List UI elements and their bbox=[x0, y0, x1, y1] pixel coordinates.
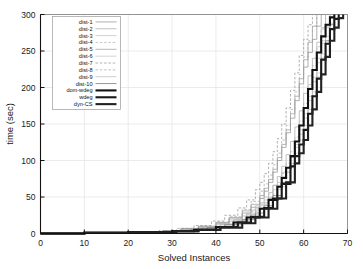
x-axis-tick-label: 40 bbox=[211, 238, 221, 248]
legend-label-dist-2: dist-2 bbox=[79, 26, 93, 32]
legend-label-wdeg: wdeg bbox=[78, 94, 92, 100]
legend-label-dist-4: dist-4 bbox=[79, 39, 93, 45]
y-axis-tick-label: 50 bbox=[26, 192, 36, 202]
x-axis-tick-label: 70 bbox=[343, 238, 353, 248]
legend-label-dist-8: dist-8 bbox=[79, 67, 93, 73]
legend-label-dist-9: dist-9 bbox=[79, 74, 93, 80]
y-axis-tick-label: 150 bbox=[21, 119, 35, 129]
y-axis-tick-label: 100 bbox=[21, 156, 35, 166]
legend-label-dist-3: dist-3 bbox=[79, 33, 93, 39]
legend-label-dist-5: dist-5 bbox=[79, 46, 93, 52]
x-axis-title: Solved Instances bbox=[158, 252, 231, 263]
chart-plot: 050100150200250300010203040506070Solved … bbox=[0, 0, 363, 269]
x-axis-tick-label: 30 bbox=[167, 238, 177, 248]
y-axis-tick-label: 200 bbox=[21, 83, 35, 93]
x-axis-tick-label: 20 bbox=[123, 238, 133, 248]
y-axis-title: time (sec) bbox=[4, 103, 15, 145]
legend-label-dist-7: dist-7 bbox=[79, 60, 93, 66]
y-axis-tick-label: 250 bbox=[21, 46, 35, 56]
x-axis-tick-label: 60 bbox=[299, 238, 309, 248]
x-axis-tick-label: 10 bbox=[80, 238, 90, 248]
y-axis-tick-label: 0 bbox=[31, 229, 36, 239]
legend-label-dyn-cs: dyn-CS bbox=[74, 101, 93, 107]
y-axis-tick-label: 300 bbox=[21, 10, 35, 20]
legend-label-dom-wdeg: dom-wdeg bbox=[66, 87, 92, 93]
legend-label-dist-6: dist-6 bbox=[79, 53, 93, 59]
legend-label-dist-1: dist-1 bbox=[79, 19, 93, 25]
figure-canvas: 050100150200250300010203040506070Solved … bbox=[0, 0, 363, 269]
legend-label-dist-10: dist-10 bbox=[76, 81, 93, 87]
x-axis-tick-label: 50 bbox=[255, 238, 265, 248]
x-axis-tick-label: 0 bbox=[38, 238, 43, 248]
